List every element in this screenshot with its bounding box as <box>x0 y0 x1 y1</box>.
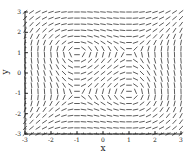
y-tick-label: -3 <box>15 130 21 137</box>
y-axis-label: y <box>0 69 10 76</box>
tick-labels: -3-2-10123-3-2-10123 <box>15 8 183 143</box>
x-tick-label: 3 <box>179 136 183 143</box>
y-tick-label: -2 <box>15 110 21 117</box>
x-tick-label: 1 <box>127 136 131 143</box>
x-axis-label: x <box>100 143 105 153</box>
x-tick-label: -2 <box>48 136 54 143</box>
slope-segments <box>23 11 183 136</box>
x-tick-label: -1 <box>74 136 80 143</box>
y-tick-label: 0 <box>17 69 21 76</box>
y-tick-label: 2 <box>17 28 21 35</box>
x-tick-label: 0 <box>101 136 105 143</box>
y-tick-label: -1 <box>15 89 21 96</box>
direction-field-chart: -3-2-10123-3-2-10123 x y <box>0 0 192 160</box>
x-tick-label: -3 <box>22 136 28 143</box>
x-tick-label: 2 <box>153 136 157 143</box>
y-tick-label: 1 <box>17 49 21 56</box>
y-tick-label: 3 <box>17 8 21 15</box>
